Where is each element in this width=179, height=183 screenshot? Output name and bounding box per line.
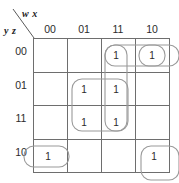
row-header-1: 01: [15, 79, 27, 91]
cell-y10-x10: 1: [151, 151, 157, 162]
column-header-1: 01: [78, 23, 90, 35]
cell-y01-x11: 1: [113, 84, 119, 95]
row-header-2: 11: [16, 112, 27, 124]
karnaugh-map-diagram: w x y z 00 01 11 10 00 01 11 10: [0, 0, 179, 183]
cell-y01-x01: 1: [81, 84, 87, 95]
axis-label-left: y z: [3, 25, 16, 36]
column-header-0: 00: [44, 23, 56, 35]
row-header-0: 00: [15, 45, 27, 57]
cell-y00-x10: 1: [149, 50, 155, 61]
cell-y11-x11: 1: [113, 117, 119, 128]
cell-y11-x01: 1: [81, 117, 87, 128]
column-header-3: 10: [146, 23, 158, 35]
axis-label-top: w x: [22, 8, 38, 19]
column-header-2: 11: [113, 23, 124, 35]
cell-y00-x11: 1: [113, 50, 119, 61]
cell-y10-x00: 1: [45, 151, 51, 162]
group-bottom-right-wrap: [141, 146, 179, 180]
group-top-right-wrap: [139, 45, 179, 66]
karnaugh-map-canvas: w x y z 00 01 11 10 00 01 11 10: [0, 0, 179, 183]
